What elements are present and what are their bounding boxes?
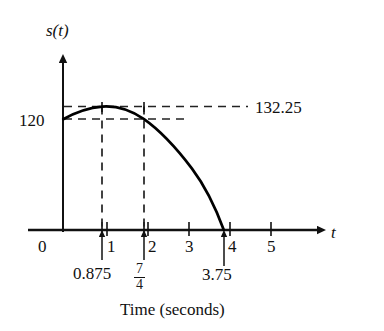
x-tick-label-2: 2 <box>148 238 157 255</box>
y-axis-label: s(t) <box>46 22 69 39</box>
y-value-label-120: 120 <box>19 112 45 129</box>
x-tick-label-3: 3 <box>185 238 194 255</box>
fraction-numerator: 7 <box>134 262 145 276</box>
graph-canvas <box>0 0 384 331</box>
x-tick-label-5: 5 <box>267 238 276 255</box>
x-axis-label: t <box>331 224 336 241</box>
vertex-time-label: 0.875 <box>73 265 111 282</box>
x-tick-label-4: 4 <box>228 238 237 255</box>
x-tick-label-1: 1 <box>107 238 116 255</box>
x-axis-caption: Time (seconds) <box>120 301 225 318</box>
fraction-denominator: 4 <box>134 278 145 292</box>
seven-fourths-fraction: 7 4 <box>134 262 145 293</box>
figure-container: s(t) t 120 132.25 0 1 2 3 4 5 0.875 7 4 … <box>0 0 384 331</box>
x-tick-label-0: 0 <box>38 238 47 255</box>
zero-time-label: 3.75 <box>202 266 232 283</box>
max-value-label: 132.25 <box>255 99 302 116</box>
pointer-arrows <box>102 236 224 266</box>
